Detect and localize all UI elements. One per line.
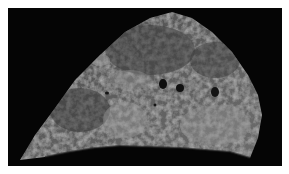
tissue-body bbox=[0, 0, 289, 174]
tissue-specimen bbox=[0, 0, 289, 174]
airway-hole bbox=[159, 79, 167, 89]
vessel-hole bbox=[211, 87, 219, 97]
airway-hole bbox=[176, 84, 184, 92]
